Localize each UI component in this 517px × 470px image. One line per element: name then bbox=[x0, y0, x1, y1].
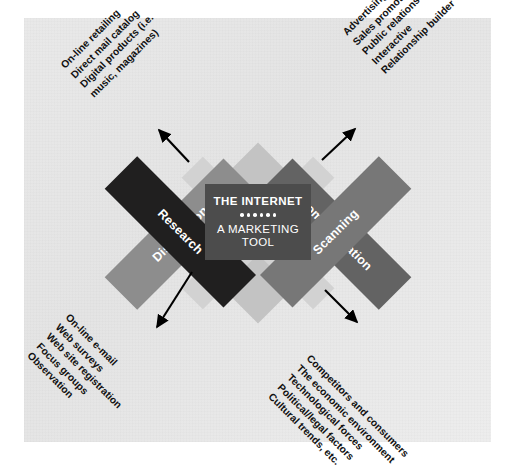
center-subtitle-line2: TOOL bbox=[242, 236, 274, 249]
center-subtitle-line1: A MARKETING bbox=[217, 223, 299, 236]
center-label-box: THE INTERNET A MARKETING TOOL bbox=[205, 184, 311, 260]
center-divider-dots bbox=[240, 213, 276, 217]
center-title: THE INTERNET bbox=[213, 195, 302, 208]
divider-dot bbox=[273, 213, 277, 217]
divider-dot bbox=[240, 213, 244, 217]
divider-dot bbox=[247, 213, 251, 217]
divider-dot bbox=[266, 213, 270, 217]
divider-dot bbox=[260, 213, 264, 217]
marketing-diagram: Distribution Communication Research Scan… bbox=[0, 0, 517, 470]
divider-dot bbox=[253, 213, 257, 217]
